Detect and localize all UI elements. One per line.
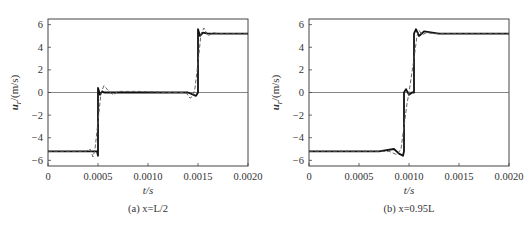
x-tick-label: 0 (45, 171, 50, 182)
y-tick-label: −4 (293, 132, 305, 143)
subcaption: (a) x=L/2 (128, 203, 168, 215)
subcaption: (b) x=0.95L (384, 203, 435, 215)
x-tick-label: 0.0015 (184, 171, 213, 182)
y-axis-label: ur/(m/s) (8, 74, 23, 110)
x-tick-label: 0.0005 (345, 171, 374, 182)
y-tick-label: 2 (38, 64, 43, 75)
x-tick-label: 0.0020 (495, 171, 524, 182)
y-tick-label: −6 (32, 155, 43, 166)
y-tick-label: 0 (299, 87, 304, 98)
y-tick-label: 6 (299, 19, 304, 30)
y-tick-label: −4 (32, 132, 44, 143)
y-axis-label: ur/(m/s) (269, 74, 284, 110)
y-tick-label: −2 (32, 110, 43, 121)
y-tick-label: −2 (293, 110, 304, 121)
y-tick-label: −6 (293, 155, 304, 166)
x-tick-label: 0 (306, 171, 311, 182)
x-axis-label: t/s (143, 184, 153, 196)
y-tick-label: 6 (38, 19, 43, 30)
x-tick-label: 0.0010 (134, 171, 163, 182)
x-tick-label: 0.0015 (445, 171, 474, 182)
y-tick-label: 0 (38, 87, 43, 98)
y-tick-label: 2 (299, 64, 304, 75)
y-tick-label: 4 (299, 42, 305, 53)
chart-a: −6−4−2024600.00050.00100.00150.0020t/sur… (0, 0, 265, 227)
chart-b: −6−4−2024600.00050.00100.00150.0020t/sur… (261, 0, 526, 227)
x-tick-label: 0.0010 (395, 171, 424, 182)
x-axis-label: t/s (404, 184, 414, 196)
y-tick-label: 4 (38, 42, 44, 53)
x-tick-label: 0.0020 (234, 171, 263, 182)
x-tick-label: 0.0005 (84, 171, 113, 182)
